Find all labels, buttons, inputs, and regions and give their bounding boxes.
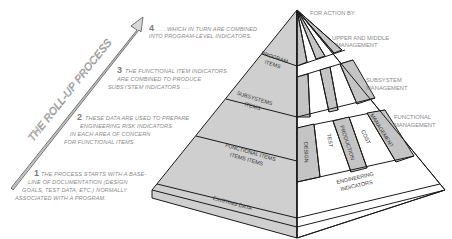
svg-text:THE PROCESS STARTS WITH A BASE: THE PROCESS STARTS WITH A BASE-: [41, 171, 146, 177]
roll-up-process-diagram: THE ROLL-UP PROCESS 4 . . . WHICH IN TUR…: [0, 0, 452, 239]
svg-text:ARE COMBINED TO PRODUCE: ARE COMBINED TO PRODUCE: [116, 76, 201, 82]
svg-text:ENGINEERING RISK INDICATORS: ENGINEERING RISK INDICATORS: [80, 123, 172, 129]
svg-text:MANAGEMENT: MANAGEMENT: [336, 42, 378, 48]
step-number: 4: [149, 23, 154, 33]
svg-text:IN EACH AREA OF CONCERN: IN EACH AREA OF CONCERN: [70, 131, 151, 137]
svg-text:MANAGEMENT: MANAGEMENT: [394, 122, 436, 128]
svg-text:FOR FUNCTIONAL ITEMS.: FOR FUNCTIONAL ITEMS.: [64, 139, 135, 145]
step-2-caption: 2 THESE DATA ARE USED TO PREPARE ENGINEE…: [64, 112, 189, 145]
step-3-caption: 3 THE FUNCTIONAL ITEM INDICATORS ARE COM…: [108, 65, 227, 90]
roll-up-arrow: THE ROLL-UP PROCESS: [11, 17, 143, 190]
svg-text:LINE OF DOCUMENTATION (DESIGN: LINE OF DOCUMENTATION (DESIGN: [28, 179, 128, 185]
svg-text:SUBSYSTEM INDICATORS . . .: SUBSYSTEM INDICATORS . . .: [108, 84, 190, 90]
step-number: 2: [77, 112, 82, 122]
svg-text:. . . WHICH IN TURN ARE COMBIN: . . . WHICH IN TURN ARE COMBINED: [157, 26, 257, 32]
action-header: FOR ACTION BY:: [310, 10, 356, 16]
action-upper-middle-management: UPPER AND MIDDLE: [332, 35, 389, 41]
action-subsystem-management: SUBSYSTEM: [366, 77, 402, 83]
svg-text:ASSOCIATED WITH A PROGRAM.: ASSOCIATED WITH A PROGRAM.: [14, 195, 106, 201]
svg-text:INTO PROGRAM-LEVEL INDICATORS.: INTO PROGRAM-LEVEL INDICATORS.: [149, 33, 252, 39]
svg-text:GOALS, TEST DATA, ETC.) NORMAL: GOALS, TEST DATA, ETC.) NORMALLY: [22, 187, 128, 193]
risk-area-design: DESIGN: [303, 142, 310, 163]
arrow-icon: [11, 17, 143, 190]
step-number: 3: [117, 65, 122, 75]
svg-text:MANAGEMENT: MANAGEMENT: [366, 85, 408, 91]
svg-text:THE FUNCTIONAL ITEM INDICATORS: THE FUNCTIONAL ITEM INDICATORS: [125, 68, 227, 74]
svg-text:THESE DATA ARE USED TO PREPARE: THESE DATA ARE USED TO PREPARE: [85, 115, 189, 121]
step-4-caption: 4 . . . WHICH IN TURN ARE COMBINED INTO …: [149, 23, 257, 39]
action-functional-management: FUNCTIONAL: [394, 114, 432, 120]
step-number: 1: [34, 168, 39, 178]
step-1-caption: 1 THE PROCESS STARTS WITH A BASE- LINE O…: [14, 168, 146, 201]
